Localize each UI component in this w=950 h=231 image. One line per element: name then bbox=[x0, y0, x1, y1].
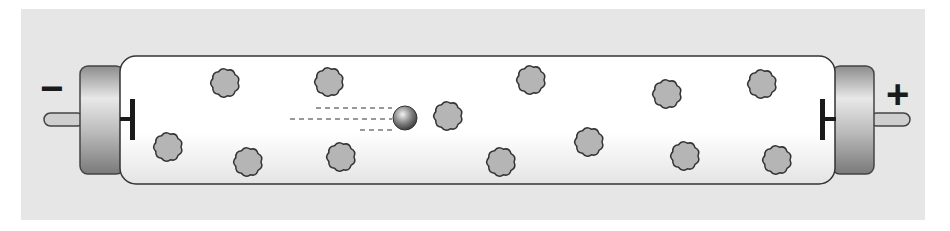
gas-atom bbox=[671, 142, 699, 171]
gas-atom bbox=[575, 128, 603, 157]
gas-atom bbox=[653, 80, 681, 109]
gas-atom bbox=[434, 102, 462, 131]
gas-atom bbox=[154, 133, 182, 162]
gas-atom bbox=[748, 70, 776, 99]
left-end-cap bbox=[80, 66, 124, 174]
negative-sign: − bbox=[40, 68, 63, 108]
gas-atom bbox=[517, 66, 545, 95]
positive-sign: + bbox=[886, 74, 909, 114]
gas-atom bbox=[234, 148, 262, 177]
electron-ball bbox=[393, 106, 417, 130]
gas-atom bbox=[487, 148, 515, 177]
tube-diagram bbox=[0, 0, 950, 231]
gas-atom bbox=[327, 143, 355, 172]
left-pin bbox=[44, 113, 84, 126]
gas-atom bbox=[315, 68, 343, 97]
gas-atom bbox=[211, 69, 239, 98]
gas-atom bbox=[763, 146, 791, 175]
right-end-cap bbox=[832, 66, 874, 174]
